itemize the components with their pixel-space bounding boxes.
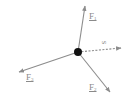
- particle-dot: [74, 48, 82, 56]
- vector-f1-arrow: [78, 6, 85, 52]
- vector-s-arrow: [78, 48, 121, 52]
- label-f2: F2: [89, 83, 97, 94]
- label-f1: F1: [89, 12, 97, 23]
- force-diagram: [0, 0, 128, 101]
- label-s: s: [103, 38, 107, 47]
- label-f3: F3: [26, 73, 34, 84]
- vector-f3-arrow: [19, 52, 78, 72]
